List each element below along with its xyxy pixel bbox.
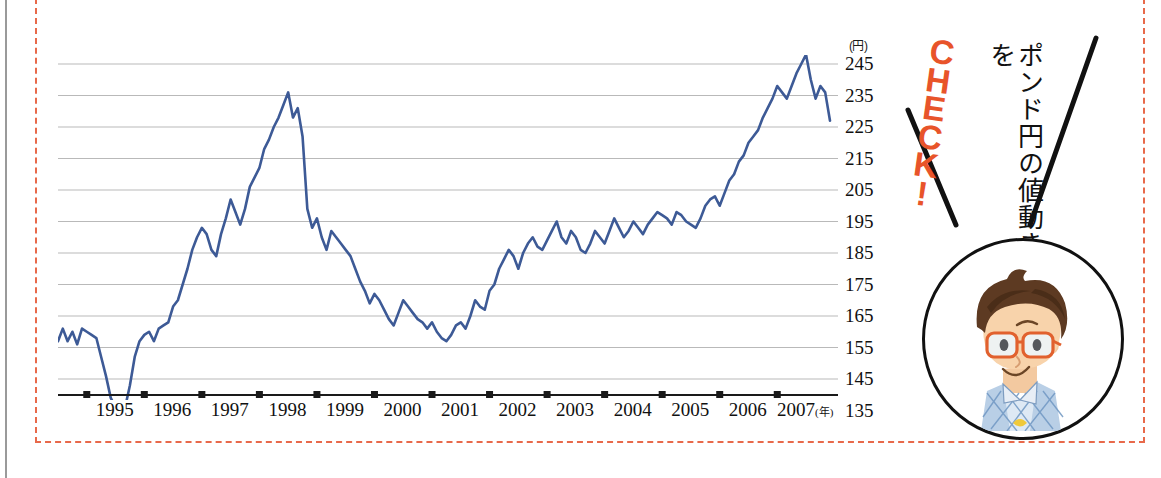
- x-axis-tick-label: 1996: [153, 400, 191, 419]
- y-axis-tick-label: 225: [845, 117, 874, 136]
- x-axis-tick-mark: [371, 391, 378, 398]
- y-axis-tick-label: 135: [845, 401, 874, 420]
- y-axis-tick-label: 205: [845, 180, 874, 199]
- y-axis-tick-label: 195: [845, 212, 874, 231]
- x-axis-tick-label: 2006: [729, 400, 767, 419]
- x-axis-tick-label: 1998: [268, 400, 306, 419]
- x-axis-tick-mark: [659, 391, 666, 398]
- line-chart: [58, 55, 838, 400]
- x-axis-tick-labels: 1995199619971998199920002001200220032004…: [58, 400, 848, 428]
- x-axis-tick-label: 2003: [556, 400, 594, 419]
- x-axis-tick-mark: [716, 391, 723, 398]
- page-root: (円) 245235225215205195185175165155145135…: [0, 0, 1161, 478]
- check-letter: !: [898, 176, 946, 210]
- page-gutter-rule: [5, 0, 7, 478]
- x-axis-tick-mark: [256, 391, 263, 398]
- character-avatar: [922, 238, 1124, 440]
- x-axis-tick-mark: [429, 391, 436, 398]
- chart-canvas: [58, 55, 838, 400]
- chart-plot-group: [58, 55, 830, 400]
- x-axis-tick-label: 2004: [614, 400, 652, 419]
- check-annotation: CHECK! ポンド円の値動きを: [900, 20, 1150, 440]
- x-axis-tick-label: 2000: [383, 400, 421, 419]
- chart-gridlines: [58, 64, 838, 400]
- x-axis-tick-mark: [544, 391, 551, 398]
- y-axis-tick-labels: 245235225215205195185175165155145135: [845, 52, 905, 397]
- x-axis-tick-mark: [486, 391, 493, 398]
- x-axis-tick-label: 2001: [441, 400, 479, 419]
- series-line-gbpjpy: [58, 55, 830, 400]
- x-axis-tick-label: 1997: [211, 400, 249, 419]
- y-axis-tick-label: 165: [845, 306, 874, 325]
- chart-x-axis: [58, 391, 838, 398]
- x-axis-tick-label: 2007(年): [777, 400, 833, 419]
- x-axis-year-value: 2007: [777, 399, 815, 420]
- x-axis-tick-mark: [198, 391, 205, 398]
- x-axis-tick-mark: [601, 391, 608, 398]
- y-axis-tick-label: 235: [845, 86, 874, 105]
- x-axis-tick-label: 1999: [326, 400, 364, 419]
- y-axis-unit-label: (円): [849, 36, 868, 53]
- x-axis-tick-mark: [774, 391, 781, 398]
- x-axis-tick-label: 1995: [96, 400, 134, 419]
- y-axis-tick-label: 215: [845, 149, 874, 168]
- boy-with-glasses-icon: [925, 241, 1115, 431]
- y-axis-tick-label: 155: [845, 338, 874, 357]
- x-axis-tick-mark: [313, 391, 320, 398]
- x-axis-tick-mark: [83, 391, 90, 398]
- x-axis-unit-label: (年): [815, 406, 833, 418]
- x-axis-tick-mark: [141, 391, 148, 398]
- y-axis-tick-label: 245: [845, 54, 874, 73]
- y-axis-tick-label: 185: [845, 243, 874, 262]
- y-axis-tick-label: 145: [845, 369, 874, 388]
- x-axis-tick-label: 2002: [499, 400, 537, 419]
- x-axis-tick-label: 2005: [671, 400, 709, 419]
- y-axis-tick-label: 175: [845, 275, 874, 294]
